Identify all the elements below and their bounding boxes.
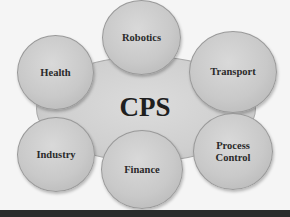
diagram-canvas: Robotics Health Transport Industry Finan… — [0, 0, 290, 210]
node-health: Health — [17, 35, 94, 110]
cps-center-label: CPS — [100, 92, 190, 123]
node-industry: Industry — [17, 117, 95, 192]
node-process-control: Process Control — [193, 113, 273, 190]
bottom-bar — [0, 210, 290, 217]
node-robotics-label: Robotics — [122, 32, 161, 44]
node-industry-label: Industry — [36, 149, 75, 161]
node-finance: Finance — [101, 130, 183, 209]
node-transport: Transport — [189, 31, 277, 113]
node-finance-label: Finance — [124, 164, 160, 176]
node-transport-label: Transport — [210, 66, 255, 78]
node-process-control-label: Process Control — [216, 140, 251, 164]
node-robotics: Robotics — [102, 0, 181, 75]
node-health-label: Health — [40, 67, 70, 79]
